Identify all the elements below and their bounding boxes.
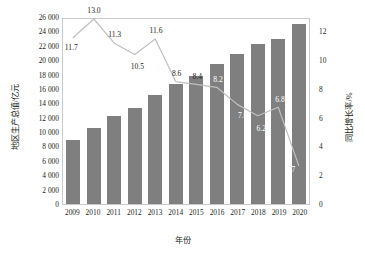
growth-rate-line	[73, 19, 299, 166]
y-axis-left-title: 地区生产总值/亿元	[8, 52, 20, 182]
y-axis-right-ticks: 024681012	[313, 18, 339, 205]
y-axis-right-tick: 4	[319, 143, 323, 151]
plot-area: 11.713.011.310.511.68.68.48.27.06.26.82.…	[62, 18, 310, 205]
x-axis-tick: 2009	[62, 208, 83, 220]
x-axis-title: 年份	[0, 233, 365, 245]
y-axis-right-tick: 6	[319, 115, 323, 123]
y-axis-left-tick: 22 000	[4, 43, 59, 51]
x-axis-tick: 2016	[207, 208, 228, 220]
x-axis-tick: 2012	[124, 208, 145, 220]
y-axis-right-tick: 0	[319, 201, 323, 209]
x-axis-tick: 2010	[83, 208, 104, 220]
y-axis-right-tick: 10	[319, 57, 326, 65]
chart-container: 02 0004 0006 0008 00010 00012 00014 0001…	[0, 0, 365, 264]
y-axis-right-tick: 12	[319, 28, 326, 36]
x-axis-tick: 2011	[103, 208, 124, 220]
line-point-label: 13.0	[87, 6, 100, 15]
y-axis-right-tick: 8	[319, 86, 323, 94]
x-axis-tick: 2013	[145, 208, 166, 220]
x-axis-tick: 2017	[227, 208, 248, 220]
y-axis-left-tick: 0	[4, 201, 59, 209]
x-axis-tick: 2015	[186, 208, 207, 220]
x-axis-tick: 2020	[289, 208, 310, 220]
x-axis-tick: 2018	[248, 208, 269, 220]
x-axis-tick: 2014	[165, 208, 186, 220]
x-axis-tick: 2019	[269, 208, 290, 220]
y-axis-left-tick: 26 000	[4, 14, 59, 22]
y-axis-left-tick: 2 000	[4, 187, 59, 195]
y-axis-right-title: 同比增长率/%	[342, 52, 354, 182]
y-axis-right-tick: 2	[319, 172, 323, 180]
x-axis-ticks: 2009201020112012201320142015201620172018…	[62, 208, 310, 220]
line-series	[63, 19, 309, 204]
y-axis-left-tick: 24 000	[4, 28, 59, 36]
